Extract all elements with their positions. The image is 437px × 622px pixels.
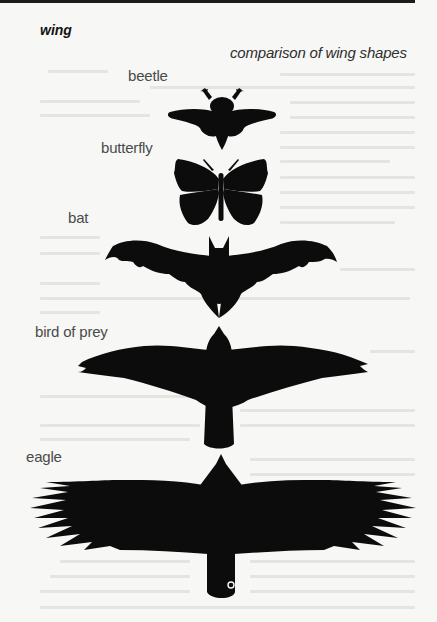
- bird-of-prey-silhouette-icon: [78, 326, 368, 450]
- label-bat: bat: [68, 209, 88, 226]
- top-rule-divider: [0, 0, 415, 3]
- beetle-silhouette-icon: [166, 86, 278, 152]
- bat-silhouette-icon: [105, 234, 337, 320]
- figure-caption: comparison of wing shapes: [230, 44, 407, 61]
- butterfly-silhouette-icon: [172, 157, 270, 229]
- encyclopedia-page: wing comparison of wing shapes beetle bu…: [0, 0, 437, 622]
- headword: wing: [40, 22, 72, 38]
- label-beetle: beetle: [128, 67, 168, 84]
- label-butterfly: butterfly: [101, 139, 153, 156]
- eagle-silhouette-icon: [30, 454, 416, 600]
